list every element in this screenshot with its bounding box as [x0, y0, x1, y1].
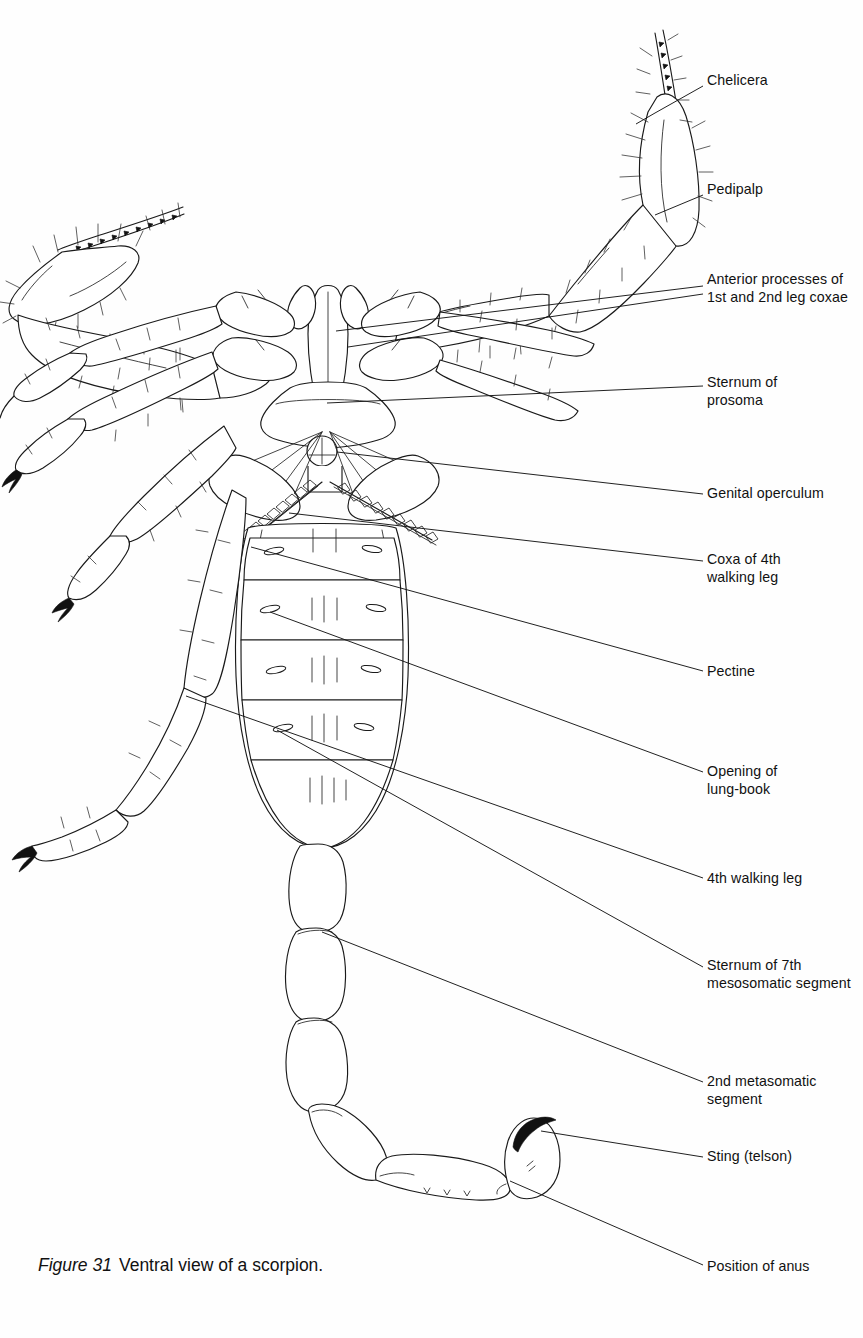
- label-sternum-of-prosoma: Sternum of prosoma: [707, 374, 777, 409]
- label-4th-walking-leg: 4th walking leg: [707, 870, 802, 888]
- label-pectine: Pectine: [707, 663, 755, 681]
- label-pedipalp: Pedipalp: [707, 181, 763, 199]
- figure-number: Figure 31: [38, 1255, 119, 1275]
- tarsal-claw-leg3: [52, 598, 74, 622]
- figure-caption: Figure 31Ventral view of a scorpion.: [38, 1255, 323, 1276]
- figure-page: Chelicera Pedipalp Anterior processes of…: [0, 0, 863, 1338]
- genital-operculum-shape: [307, 436, 337, 466]
- tarsal-claw-leg4: [12, 846, 37, 872]
- label-coxa-of-4th-walking-leg: Coxa of 4th walking leg: [707, 551, 781, 586]
- label-chelicera: Chelicera: [707, 72, 768, 90]
- prosoma: [209, 286, 443, 521]
- label-2nd-metasomatic-segment: 2nd metasomatic segment: [707, 1073, 817, 1108]
- label-sting-telson: Sting (telson): [707, 1148, 792, 1166]
- mesosoma: [236, 524, 409, 849]
- chela-teeth-left: [76, 215, 177, 251]
- label-sternum-of-7th-mesosomatic-segment: Sternum of 7th mesosomatic segment: [707, 957, 851, 992]
- label-position-of-anus: Position of anus: [707, 1258, 810, 1276]
- label-opening-of-lung-book: Opening of lung-book: [707, 763, 777, 798]
- figure-caption-text: Ventral view of a scorpion.: [119, 1255, 323, 1275]
- tarsal-claw-leg2: [2, 470, 22, 493]
- label-anterior-processes: Anterior processes of 1st and 2nd leg co…: [707, 271, 848, 306]
- metasoma: [285, 844, 510, 1200]
- label-genital-operculum: Genital operculum: [707, 485, 824, 503]
